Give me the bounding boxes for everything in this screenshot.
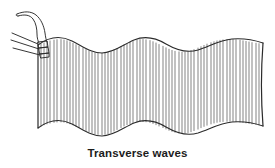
transverse-wave-illustration (0, 0, 275, 168)
finger-line-1 (12, 33, 38, 44)
hand-inner-contour (18, 15, 39, 43)
figure-caption: Transverse waves (0, 146, 275, 160)
hand-tip (16, 14, 18, 16)
figure-container: Transverse waves (0, 0, 275, 168)
finger-line-3 (13, 48, 40, 55)
corrugated-sheet (38, 37, 263, 136)
finger-line-2 (11, 40, 39, 49)
